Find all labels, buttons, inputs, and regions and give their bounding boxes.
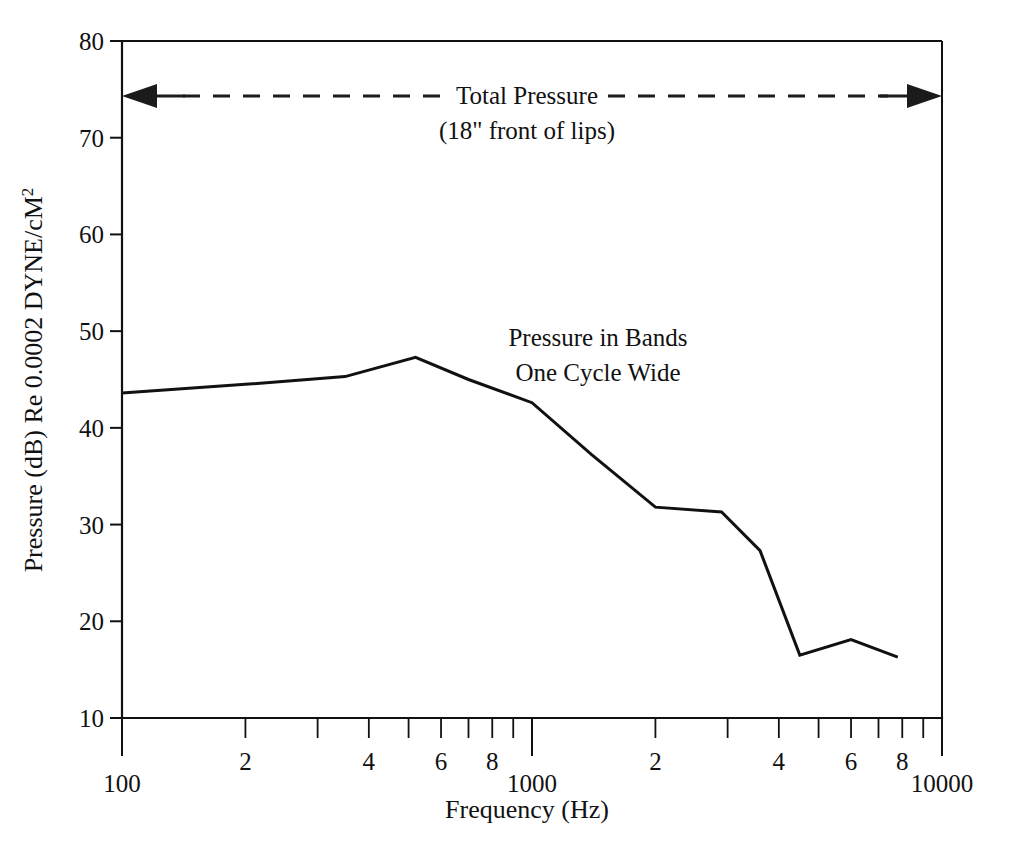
y-tick-label: 20: [79, 608, 104, 635]
x-minor-tick-label: 2: [649, 748, 662, 775]
x-minor-tick-label: 6: [845, 748, 858, 775]
x-minor-tick-label: 4: [773, 748, 786, 775]
data-series-group: [122, 357, 898, 657]
y-tick-label: 40: [79, 415, 104, 442]
x-axis-title: Frequency (Hz): [445, 795, 609, 824]
x-axis-minor-tick-labels: 24682468: [239, 748, 908, 775]
y-tick-label: 10: [79, 705, 104, 732]
x-minor-tick-label: 8: [896, 748, 909, 775]
pressure-frequency-chart: 1020304050607080 24682468 100100010000 T…: [0, 0, 1010, 860]
x-axis-minor-ticks: [245, 718, 923, 738]
arrow-head-right-icon: [907, 84, 942, 108]
y-axis-ticks: [110, 41, 122, 718]
x-axis-major-tick-labels: 100100010000: [103, 770, 973, 797]
series-pressure-in-bands: [122, 357, 898, 657]
arrow-head-left-icon: [122, 84, 157, 108]
y-axis-tick-labels: 1020304050607080: [79, 28, 104, 732]
x-minor-tick-label: 8: [486, 748, 499, 775]
chart-figure: 1020304050607080 24682468 100100010000 T…: [0, 0, 1010, 860]
x-minor-tick-label: 6: [435, 748, 448, 775]
x-major-tick-label: 10000: [911, 770, 974, 797]
annotation-pressure-in-bands-line2: One Cycle Wide: [515, 359, 680, 386]
y-tick-label: 80: [79, 28, 104, 55]
y-axis-title-wrap: Pressure (dB) Re 0.0002 DYNE/cM2: [18, 188, 48, 573]
x-major-tick-label: 100: [103, 770, 141, 797]
annotation-pressure-in-bands-line1: Pressure in Bands: [508, 324, 687, 351]
y-axis-title-superscript: 2: [18, 188, 37, 197]
y-tick-label: 50: [79, 318, 104, 345]
x-minor-tick-label: 2: [239, 748, 252, 775]
x-major-tick-label: 1000: [507, 770, 557, 797]
y-tick-label: 30: [79, 512, 104, 539]
x-minor-tick-label: 4: [363, 748, 376, 775]
annotation-total-pressure-line1: Total Pressure: [456, 82, 598, 109]
y-tick-label: 70: [79, 125, 104, 152]
annotation-total-pressure-line2: (18" front of lips): [439, 117, 615, 145]
y-axis-title: Pressure (dB) Re 0.0002 DYNE/cM: [19, 196, 48, 572]
y-axis-title-group: Pressure (dB) Re 0.0002 DYNE/cM2: [18, 188, 48, 573]
y-tick-label: 60: [79, 221, 104, 248]
